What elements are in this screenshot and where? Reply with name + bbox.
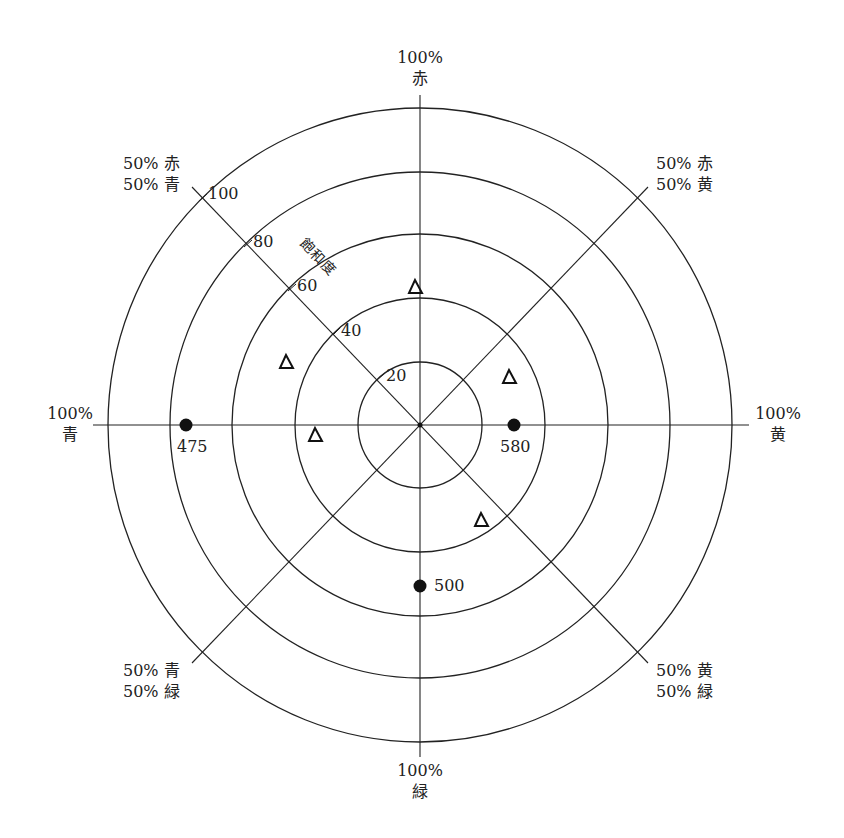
tick-80: 80 — [253, 232, 273, 251]
label-bottom-left-blue-green: 50% 青 50% 緑 — [123, 660, 180, 702]
point-label-475: 475 — [177, 437, 208, 456]
triangle-points — [280, 280, 516, 526]
wavelength-points — [180, 419, 521, 593]
label-bottom-line2: 緑 — [395, 781, 445, 802]
label-bottom-green: 100% 緑 — [395, 760, 445, 802]
triangle-point-2 — [280, 355, 293, 368]
label-bottom-right-line1: 50% 黄 — [656, 660, 713, 681]
tick-60: 60 — [297, 276, 317, 295]
label-top-left-line1: 50% 赤 — [123, 153, 180, 174]
label-top-right-line1: 50% 赤 — [656, 153, 713, 174]
color-circle-chart — [0, 0, 844, 838]
label-left-blue: 100% 青 — [42, 403, 98, 445]
label-top-right-line2: 50% 黄 — [656, 174, 713, 195]
label-top-left-red-blue: 50% 赤 50% 青 — [123, 153, 180, 195]
center-dot — [418, 423, 423, 428]
label-bottom-left-line1: 50% 青 — [123, 660, 180, 681]
tick-100: 100 — [208, 184, 239, 203]
label-bottom-line1: 100% — [395, 760, 445, 781]
label-top-right-red-yellow: 50% 赤 50% 黄 — [656, 153, 713, 195]
label-left-line1: 100% — [42, 403, 98, 424]
label-bottom-right-line2: 50% 緑 — [656, 681, 713, 702]
label-left-line2: 青 — [42, 424, 98, 445]
tick-20: 20 — [386, 366, 406, 385]
triangle-point-4 — [503, 370, 516, 383]
tick-leaders — [199, 194, 385, 380]
label-top-red: 100% 赤 — [395, 47, 445, 89]
point-500 — [414, 580, 427, 593]
point-475 — [180, 419, 193, 432]
label-top-line2: 赤 — [395, 68, 445, 89]
label-bottom-right-yellow-green: 50% 黄 50% 緑 — [656, 660, 713, 702]
label-right-yellow: 100% 黄 — [750, 403, 806, 445]
label-right-line1: 100% — [750, 403, 806, 424]
triangle-point-3 — [309, 428, 322, 441]
point-label-580: 580 — [500, 437, 531, 456]
point-label-500: 500 — [434, 576, 465, 595]
tick-40: 40 — [341, 321, 361, 340]
triangle-point-5 — [475, 513, 488, 526]
label-top-line1: 100% — [395, 47, 445, 68]
point-580 — [508, 419, 521, 432]
label-top-left-line2: 50% 青 — [123, 174, 180, 195]
label-bottom-left-line2: 50% 緑 — [123, 681, 180, 702]
label-right-line2: 黄 — [750, 424, 806, 445]
